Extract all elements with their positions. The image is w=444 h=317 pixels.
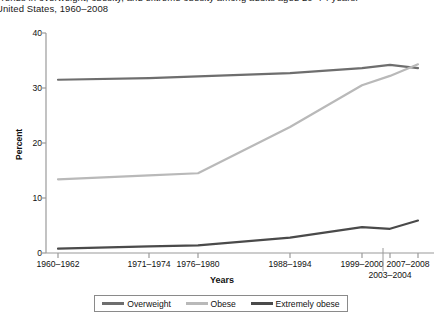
- legend-label-obese: Obese: [211, 299, 236, 309]
- y-axis-ticks: [41, 33, 46, 253]
- chart-plot-area: [0, 0, 444, 317]
- series-line-extremely-obese: [58, 221, 418, 249]
- legend-item-extremely-obese[interactable]: Extremely obese: [250, 299, 341, 309]
- series-line-overweight: [58, 65, 418, 80]
- legend-swatch-obese: [186, 302, 208, 305]
- series-line-obese: [58, 64, 418, 179]
- legend-item-overweight[interactable]: Overweight: [101, 299, 171, 309]
- legend-swatch-overweight: [102, 302, 124, 305]
- legend-label-extremely-obese: Extremely obese: [276, 299, 340, 309]
- chart-legend: Overweight Obese Extremely obese: [94, 295, 348, 312]
- legend-item-obese[interactable]: Obese: [185, 299, 237, 309]
- legend-label-overweight: Overweight: [127, 299, 170, 309]
- legend-swatch-extremely-obese: [251, 302, 273, 305]
- x-axis-ticks: [58, 248, 418, 271]
- chart-figure: Trends in overweight, obesity, and extre…: [0, 0, 444, 317]
